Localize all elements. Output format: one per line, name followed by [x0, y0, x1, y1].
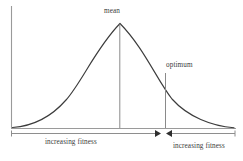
bell-curve-figure — [0, 0, 243, 161]
increasing-fitness-label-left: increasing fitness — [45, 139, 97, 146]
mean-label: mean — [104, 8, 120, 15]
arrowhead-right-icon — [155, 130, 161, 137]
arrowhead-left-icon — [166, 130, 172, 137]
increasing-fitness-label-right: increasing fitness — [173, 143, 225, 150]
optimum-label: optimum — [166, 62, 193, 69]
bell-curve-path — [13, 24, 235, 128]
